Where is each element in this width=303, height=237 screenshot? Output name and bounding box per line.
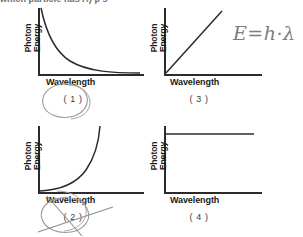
x-axis-label: Wavelength	[170, 195, 219, 205]
choice-label-4: ( 4 )	[164, 212, 234, 222]
graph-choice-4: Photon Energy Wavelength ( 4 )	[140, 124, 260, 236]
x-axis-label: Wavelength	[46, 77, 95, 87]
x-axis-label: Wavelength	[170, 77, 219, 87]
choice-label-1: ( 1 )	[38, 94, 108, 104]
x-axis-label: Wavelength	[46, 195, 95, 205]
handwritten-formula: E=h·λ	[233, 22, 296, 44]
worksheet-page: which particle has A) p s Photon Energy …	[0, 0, 303, 237]
graph-choice-2: Photon Energy Wavelength ( 2 )	[14, 124, 139, 236]
choice-label-2: ( 2 )	[38, 212, 108, 222]
choice-label-3: ( 3 )	[164, 94, 234, 104]
graph-choice-1: Photon Energy Wavelength ( 1 )	[14, 6, 139, 116]
